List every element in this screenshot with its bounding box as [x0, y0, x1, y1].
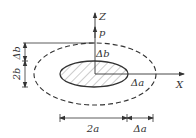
dim-bottom-2a-label: 2a	[86, 123, 99, 134]
dim-left-delta-b-label: Δb	[11, 47, 22, 61]
dim-left-2b-label: 2b	[11, 68, 22, 81]
delta-b-center-label: Δb	[95, 48, 110, 59]
load-label: p	[99, 27, 106, 38]
diagram-canvas: Z p X Δb Δa Δb 2b 2a Δa	[0, 0, 196, 138]
ellipse-diagram: Z p X Δb Δa Δb 2b 2a Δa	[0, 0, 196, 138]
z-axis-label: Z	[98, 11, 107, 22]
x-axis-label: X	[175, 79, 184, 90]
dim-bottom-delta-a-label: Δa	[132, 123, 146, 134]
delta-a-right-label: Δa	[130, 77, 144, 88]
